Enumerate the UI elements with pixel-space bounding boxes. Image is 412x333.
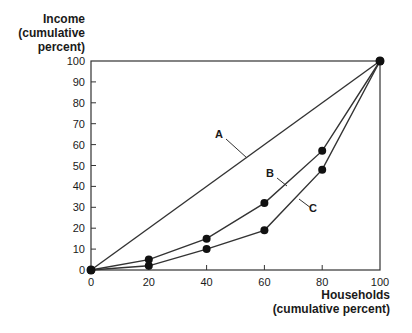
endpoint-marker <box>376 57 385 66</box>
x-tick-label: 100 <box>371 276 389 288</box>
x-tick-label: 60 <box>258 276 270 288</box>
label-leader-a <box>226 139 247 158</box>
y-tick-label: 30 <box>73 201 85 213</box>
x-tick-label: 40 <box>200 276 212 288</box>
x-axis-title-line-2: (cumulative percent) <box>273 302 390 316</box>
y-tick-label: 50 <box>73 160 85 172</box>
data-point-marker <box>260 199 268 207</box>
x-tick-label: 80 <box>316 276 328 288</box>
data-point-marker <box>203 235 211 243</box>
y-tick-label: 100 <box>67 55 85 67</box>
origin-marker <box>87 266 96 275</box>
lorenz-curve-chart: 0102030405060708090100020406080100 ABC <box>0 0 412 333</box>
y-tick-label: 90 <box>73 76 85 88</box>
y-tick-label: 40 <box>73 180 85 192</box>
y-tick-label: 0 <box>79 264 85 276</box>
y-tick-label: 80 <box>73 97 85 109</box>
series-label-a: A <box>215 128 223 140</box>
y-tick-label: 70 <box>73 118 85 130</box>
x-tick-label: 0 <box>88 276 94 288</box>
data-point-marker <box>145 262 153 270</box>
data-point-marker <box>318 147 326 155</box>
label-leader-b <box>277 178 287 186</box>
y-tick-label: 20 <box>73 222 85 234</box>
series-label-c: C <box>309 202 317 214</box>
series-label-b: B <box>266 167 274 179</box>
y-tick-label: 60 <box>73 139 85 151</box>
data-point-marker <box>203 245 211 253</box>
curve-a <box>91 61 380 270</box>
data-point-marker <box>260 226 268 234</box>
x-axis-title: Households (cumulative percent) <box>273 288 390 316</box>
series-lines <box>87 57 385 275</box>
x-axis-title-line-1: Households <box>273 288 390 302</box>
data-point-marker <box>318 166 326 174</box>
x-tick-label: 20 <box>143 276 155 288</box>
y-tick-label: 10 <box>73 243 85 255</box>
